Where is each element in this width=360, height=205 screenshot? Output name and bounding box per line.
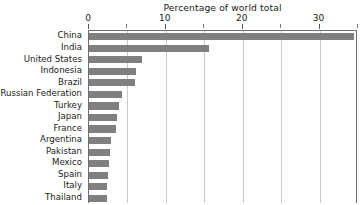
y-axis-category-labels: ChinaIndiaUnited StatesIndonesiaBrazilRu… <box>0 30 85 203</box>
bar-thailand <box>89 195 107 202</box>
category-label-pakistan: Pakistan <box>46 147 82 156</box>
plot-area <box>88 30 357 203</box>
x-tick-label-20: 20 <box>236 13 247 23</box>
bar-row <box>89 149 356 156</box>
bar-row <box>89 137 356 144</box>
bar-japan <box>89 114 117 121</box>
category-label-thailand: Thailand <box>45 193 82 202</box>
x-tick-mark-major <box>88 24 89 29</box>
x-tick-mark-major <box>242 24 243 29</box>
category-label-turkey: Turkey <box>54 101 82 110</box>
x-tick-mark-minor <box>357 24 358 28</box>
bar-row <box>89 79 356 86</box>
bar-row <box>89 195 356 202</box>
bar-italy <box>89 183 107 190</box>
category-label-china: China <box>57 31 82 40</box>
bar-row <box>89 183 356 190</box>
x-tick-label-30: 30 <box>313 13 324 23</box>
category-label-argentina: Argentina <box>40 135 82 144</box>
bars-layer <box>89 31 356 203</box>
category-label-brazil: Brazil <box>58 78 82 87</box>
bar-turkey <box>89 102 119 109</box>
bar-row <box>89 160 356 167</box>
bar-united-states <box>89 56 142 63</box>
x-tick-mark-major <box>319 24 320 29</box>
bar-row <box>89 125 356 132</box>
bar-china <box>89 33 354 40</box>
x-tick-mark-minor <box>203 24 204 28</box>
category-label-italy: Italy <box>63 181 82 190</box>
category-label-russian-federation: Russian Federation <box>0 89 82 98</box>
bar-pakistan <box>89 149 110 156</box>
bar-row <box>89 172 356 179</box>
bar-row <box>89 33 356 40</box>
bar-indonesia <box>89 68 136 75</box>
bar-row <box>89 102 356 109</box>
bar-row <box>89 114 356 121</box>
bar-row <box>89 45 356 52</box>
bar-russian-federation <box>89 91 122 98</box>
bar-row <box>89 68 356 75</box>
bar-india <box>89 45 209 52</box>
category-label-united-states: United States <box>24 55 82 64</box>
bar-brazil <box>89 79 135 86</box>
x-tick-mark-minor <box>126 24 127 28</box>
category-label-mexico: Mexico <box>52 158 82 167</box>
category-label-japan: Japan <box>58 112 82 121</box>
x-tick-mark-minor <box>280 24 281 28</box>
bar-mexico <box>89 160 109 167</box>
bar-row <box>89 91 356 98</box>
bar-france <box>89 125 116 132</box>
category-label-france: France <box>53 124 82 133</box>
x-tick-label-10: 10 <box>159 13 170 23</box>
x-tick-label-0: 0 <box>85 13 91 23</box>
bar-argentina <box>89 137 111 144</box>
category-label-indonesia: Indonesia <box>40 66 82 75</box>
bar-chart: Percentage of world total 0102030 ChinaI… <box>0 0 360 205</box>
bar-row <box>89 56 356 63</box>
x-tick-mark-major <box>165 24 166 29</box>
category-label-spain: Spain <box>58 170 82 179</box>
chart-title: Percentage of world total <box>88 2 357 13</box>
category-label-india: India <box>61 43 82 52</box>
bar-spain <box>89 172 108 179</box>
